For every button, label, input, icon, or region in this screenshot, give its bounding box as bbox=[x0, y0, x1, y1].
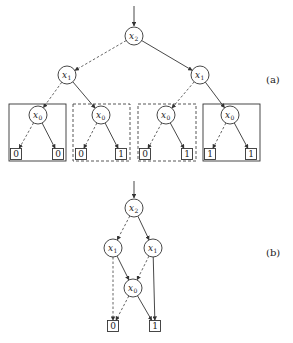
terminal-leaf-1: 1 bbox=[205, 149, 216, 160]
leaf-value: 0 bbox=[13, 149, 19, 159]
leaf-value: 0 bbox=[78, 149, 84, 159]
panel-label-b: (b) bbox=[266, 247, 280, 258]
low-edge bbox=[75, 41, 126, 71]
terminal-leaf-0: 0 bbox=[11, 149, 22, 160]
terminal-leaf-1: 1 bbox=[182, 149, 193, 160]
leaf-value: 1 bbox=[207, 149, 213, 159]
decision-node-x0: x0 bbox=[92, 106, 110, 124]
decision-node-x1: x1 bbox=[144, 239, 162, 257]
terminal-leaf-1: 1 bbox=[150, 321, 161, 332]
leaf-value: 0 bbox=[110, 321, 116, 331]
low-edge bbox=[19, 123, 33, 149]
terminal-leaf-1: 1 bbox=[116, 149, 127, 160]
high-edge bbox=[105, 123, 118, 148]
high-edge bbox=[117, 256, 129, 280]
decision-node-x1: x1 bbox=[58, 66, 76, 84]
leaf-value: 1 bbox=[184, 149, 190, 159]
high-edge bbox=[153, 257, 155, 321]
decision-node-x1: x1 bbox=[191, 66, 209, 84]
terminal-leaf-0: 0 bbox=[108, 321, 119, 332]
leaf-value: 1 bbox=[118, 149, 124, 159]
leaf-value: 0 bbox=[55, 149, 61, 159]
binary-decision-tree-a: x2x1x1x0x0x0x000010111 bbox=[9, 6, 260, 161]
low-edge bbox=[213, 123, 226, 148]
low-edge bbox=[137, 256, 149, 280]
low-edge bbox=[117, 216, 130, 240]
leaf-value: 1 bbox=[152, 321, 158, 331]
terminal-leaf-0: 0 bbox=[53, 149, 64, 160]
low-edge bbox=[148, 123, 162, 149]
decision-node-x0: x0 bbox=[124, 279, 142, 297]
leaf-value: 1 bbox=[248, 149, 254, 159]
high-edge bbox=[234, 123, 248, 149]
decision-node-x0: x0 bbox=[157, 106, 175, 124]
high-edge bbox=[138, 216, 149, 240]
reduced-bdd-b: x2x1x1x001 bbox=[104, 181, 162, 332]
panel-label-a: (a) bbox=[266, 74, 280, 85]
high-edge bbox=[142, 41, 193, 71]
terminal-leaf-0: 0 bbox=[76, 149, 87, 160]
leaf-value: 0 bbox=[142, 149, 148, 159]
low-edge bbox=[116, 296, 129, 321]
high-edge bbox=[170, 123, 184, 149]
decision-node-x1: x1 bbox=[104, 239, 122, 257]
bdd-diagram-canvas: x2x1x1x0x0x0x000010111 x2x1x1x001 (a) (b… bbox=[0, 0, 293, 343]
high-edge bbox=[138, 296, 152, 321]
terminal-leaf-0: 0 bbox=[140, 149, 151, 160]
decision-node-x2: x2 bbox=[125, 27, 143, 45]
low-edge bbox=[84, 123, 97, 148]
high-edge bbox=[42, 123, 55, 148]
decision-node-x2: x2 bbox=[125, 199, 143, 217]
terminal-leaf-1: 1 bbox=[246, 149, 257, 160]
decision-node-x0: x0 bbox=[221, 106, 239, 124]
decision-node-x0: x0 bbox=[29, 106, 47, 124]
